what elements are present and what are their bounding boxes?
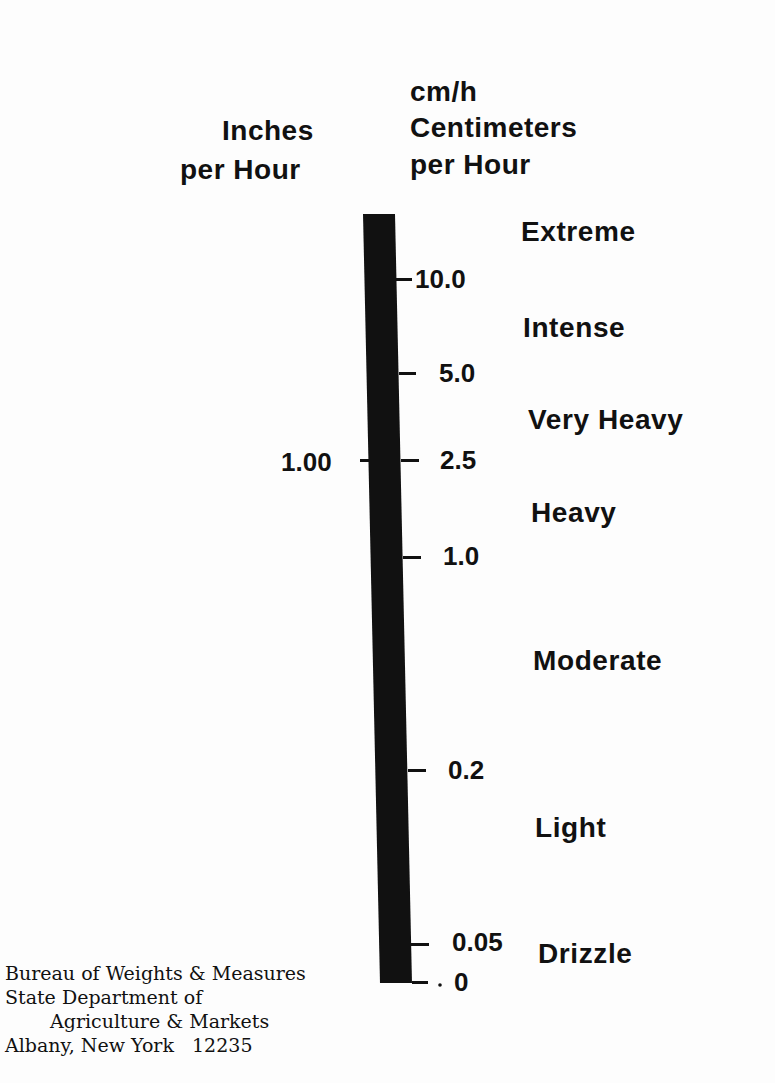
cm-tick-label-0.05: 0.05	[452, 928, 503, 956]
tick-0.2	[408, 769, 426, 772]
tick-5	[399, 372, 416, 375]
tick-0	[412, 981, 428, 984]
tick-0.05	[411, 943, 429, 946]
category-very-heavy: Very Heavy	[528, 405, 683, 435]
cm-tick-label-2.5: 2.5	[440, 446, 476, 474]
scale-bar	[0, 0, 775, 1083]
cm-tick-label-5: 5.0	[439, 359, 475, 387]
tick-10	[396, 278, 412, 281]
footer-line2: State Department of	[5, 986, 202, 1009]
cm-tick-label-10: 10.0	[415, 265, 466, 293]
cm-tick-label-1: 1.0	[443, 542, 479, 570]
category-light: Light	[535, 813, 606, 843]
cm-tick-label-0: 0	[454, 968, 468, 996]
cm-tick-label-0.2: 0.2	[448, 756, 484, 784]
category-drizzle: Drizzle	[538, 939, 632, 969]
category-heavy: Heavy	[531, 498, 617, 528]
category-intense: Intense	[523, 313, 625, 343]
footer-line3: Agriculture & Markets	[50, 1010, 269, 1033]
footer-line1: Bureau of Weights & Measures	[5, 962, 306, 985]
inch-tick-label: 1.00	[281, 448, 332, 476]
footer-line4: Albany, New York 12235	[5, 1034, 252, 1057]
tick-inch-1	[360, 459, 373, 462]
category-moderate: Moderate	[533, 646, 662, 676]
tick-1	[403, 556, 421, 559]
tick-2.5	[401, 459, 419, 462]
category-extreme: Extreme	[521, 217, 636, 247]
